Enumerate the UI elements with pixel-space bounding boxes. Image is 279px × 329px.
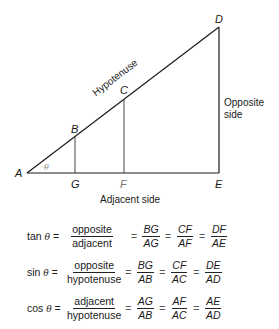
denominator: adjacent bbox=[72, 237, 112, 249]
fraction: BGAG bbox=[141, 224, 161, 249]
ratio-fraction: oppositehypotenuse bbox=[67, 260, 121, 285]
denominator: hypotenuse bbox=[67, 309, 121, 321]
numerator: DF bbox=[211, 224, 227, 237]
denominator: AG bbox=[143, 237, 158, 249]
formula-row-sin: sin θ = oppositehypotenuse = BGAB = CFAC… bbox=[27, 254, 277, 290]
numerator: adjacent bbox=[73, 296, 115, 309]
fraction: AEAD bbox=[203, 296, 223, 321]
equals-sign: = bbox=[189, 266, 203, 278]
numerator: AF bbox=[172, 296, 187, 309]
formula-row-cos: cos θ = adjacenthypotenuse = AGAB = AFAC… bbox=[27, 290, 277, 326]
function-name: sin θ = bbox=[27, 266, 67, 278]
equals-sign: = bbox=[53, 230, 59, 242]
similar-triangles-diagram: A B C D E F G θ Hypotenuse Opposite side… bbox=[0, 0, 279, 329]
numerator: AG bbox=[137, 296, 154, 309]
denominator: AD bbox=[206, 273, 221, 285]
adjacent-side-label: Adjacent side bbox=[100, 195, 160, 205]
ratio-fraction: adjacenthypotenuse bbox=[67, 296, 121, 321]
fraction: DFAE bbox=[209, 224, 229, 249]
fraction: BGAB bbox=[135, 260, 155, 285]
equals-sign: = bbox=[52, 266, 58, 278]
function-label: tan bbox=[27, 230, 42, 242]
equals-sign: = bbox=[189, 302, 203, 314]
hypotenuse-line bbox=[27, 27, 219, 173]
point-label-e: E bbox=[215, 179, 222, 189]
theta-symbol: θ bbox=[45, 232, 50, 242]
function-label: cos bbox=[27, 302, 43, 314]
equals-sign: = bbox=[195, 230, 209, 242]
numerator: DE bbox=[205, 260, 222, 273]
opposite-label-line1: Opposite bbox=[224, 97, 264, 109]
numerator: CF bbox=[171, 260, 187, 273]
theta-angle-label: θ bbox=[44, 163, 49, 173]
numerator: opposite bbox=[73, 260, 115, 273]
formula-row-tan: tan θ = oppositeadjacent = BGAG = CFAF =… bbox=[27, 218, 277, 254]
equals-sign: = bbox=[155, 302, 169, 314]
numerator: BG bbox=[142, 224, 159, 237]
ratio-fraction: oppositeadjacent bbox=[67, 224, 117, 249]
denominator: AB bbox=[138, 273, 152, 285]
equals-sign: = bbox=[121, 266, 135, 278]
fraction: DEAD bbox=[203, 260, 223, 285]
function-label: sin bbox=[27, 266, 40, 278]
theta-symbol: θ bbox=[46, 304, 51, 314]
numerator: opposite bbox=[71, 224, 113, 237]
numerator: AE bbox=[205, 296, 221, 309]
opposite-label-line2: side bbox=[224, 109, 264, 121]
denominator: AD bbox=[206, 309, 221, 321]
function-name: cos θ = bbox=[27, 302, 67, 314]
equals-sign: = bbox=[55, 302, 61, 314]
fraction: CFAC bbox=[169, 260, 189, 285]
numerator: CF bbox=[177, 224, 193, 237]
point-label-b: B bbox=[71, 124, 78, 134]
denominator: hypotenuse bbox=[67, 273, 121, 285]
equals-sign: = bbox=[127, 230, 141, 242]
point-label-c: C bbox=[120, 85, 128, 95]
equals-sign: = bbox=[155, 266, 169, 278]
denominator: AC bbox=[172, 273, 187, 285]
fraction: CFAF bbox=[175, 224, 195, 249]
function-name: tan θ = bbox=[27, 230, 67, 242]
theta-symbol: θ bbox=[43, 268, 48, 278]
fraction: AFAC bbox=[169, 296, 189, 321]
denominator: AC bbox=[172, 309, 187, 321]
point-label-a: A bbox=[15, 168, 22, 178]
opposite-side-label: Opposite side bbox=[224, 97, 264, 121]
fraction: AGAB bbox=[135, 296, 155, 321]
equals-sign: = bbox=[121, 302, 135, 314]
denominator: AF bbox=[178, 237, 191, 249]
denominator: AB bbox=[138, 309, 152, 321]
equals-sign: = bbox=[161, 230, 175, 242]
point-label-f: F bbox=[120, 179, 127, 189]
numerator: BG bbox=[137, 260, 154, 273]
point-label-g: G bbox=[71, 179, 80, 189]
point-label-d: D bbox=[215, 14, 223, 24]
trig-formulas: tan θ = oppositeadjacent = BGAG = CFAF =… bbox=[27, 218, 277, 326]
denominator: AE bbox=[212, 237, 226, 249]
